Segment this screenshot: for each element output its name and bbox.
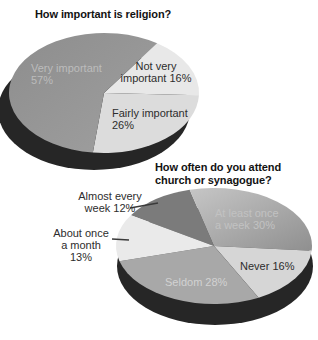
slice-label-at-least-once-a-week: At least once a week 30% (215, 207, 279, 231)
page: How important is religion? How often do … (0, 0, 318, 340)
slice-label-fairly-important: Fairly important 26% (112, 107, 188, 131)
slice-label-seldom: Seldom 28% (165, 276, 227, 288)
slice-label-never: Never 16% (240, 260, 294, 272)
pie-religion-importance (0, 33, 199, 170)
slice-label-not-very-important: Not very important 16% (114, 60, 198, 84)
chart1-title: How important is religion? (35, 8, 171, 21)
slice-label-about-once-a-month: About once a month 13% (45, 227, 117, 263)
slice-label-almost-every-week: Almost every week 12% (70, 190, 150, 214)
chart2-title: How often do you attend church or synago… (155, 161, 281, 187)
slice-label-very-important: Very important 57% (31, 62, 102, 86)
